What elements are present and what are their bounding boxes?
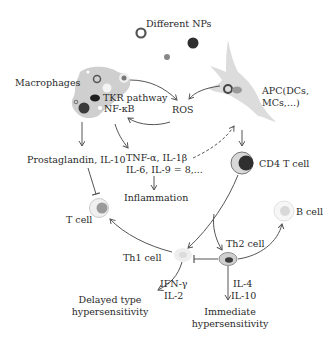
label-il-10: IL-10: [231, 290, 256, 301]
b-cell-icon: [274, 201, 294, 221]
th1-cell-icon: [174, 248, 192, 262]
nanoparticles-icon: [137, 29, 199, 61]
dashed-arrow-cytokines-to-apc: [193, 126, 234, 158]
label-cytokines-line2: IL-6, IL-9 = 8,...: [126, 164, 203, 175]
label-immediate: Immediate: [190, 306, 270, 317]
label-delayed-type: Delayed type: [70, 294, 150, 305]
label-prostaglandin: Prostaglandin, IL-10: [27, 154, 126, 165]
label-tkr-pathway: TKR pathway: [103, 92, 167, 103]
label-ros: ROS: [172, 104, 193, 115]
arrow-nfkb-to-cytokines: [115, 124, 128, 148]
apc-cell-icon: [208, 40, 276, 122]
arrow-th1-to-tcell: [110, 219, 172, 252]
label-apc-line1: APC(DCs,: [262, 85, 309, 96]
label-cd4-t-cell: CD4 T cell: [259, 158, 309, 169]
diagram-canvas: Different NPs Macrophages TKR pathway NF…: [0, 0, 332, 343]
th2-cell-icon: [219, 253, 237, 266]
label-th1-cell: Th1 cell: [123, 252, 162, 263]
cd4-t-cell-icon: [231, 152, 254, 174]
label-b-cell: B cell: [296, 206, 323, 217]
label-delayed-hypersensitivity: hypersensitivity: [70, 306, 150, 317]
label-t-cell: T cell: [66, 214, 92, 225]
label-immediate-hypersensitivity: hypersensitivity: [190, 318, 270, 329]
label-il-4: IL-4: [233, 278, 252, 289]
label-il-2: IL-2: [164, 290, 183, 301]
label-th2-cell: Th2 cell: [226, 238, 265, 249]
inhibit-prostaglandin-to-tcell: [88, 168, 96, 194]
label-cytokines-line1: TNF-α, IL-1β: [126, 152, 187, 163]
arrow-cd4-to-th2: [213, 214, 222, 250]
label-inflammation: Inflammation: [124, 192, 188, 203]
label-different-nps: Different NPs: [146, 18, 211, 29]
label-apc-line2: MCs,...): [262, 97, 300, 108]
label-ifn-gamma: IFN-γ: [160, 278, 188, 289]
label-nf-kb: NF-κB: [104, 103, 135, 114]
arrow-ros-to-nfkb: [128, 118, 170, 125]
label-macrophages: Macrophages: [15, 77, 80, 88]
